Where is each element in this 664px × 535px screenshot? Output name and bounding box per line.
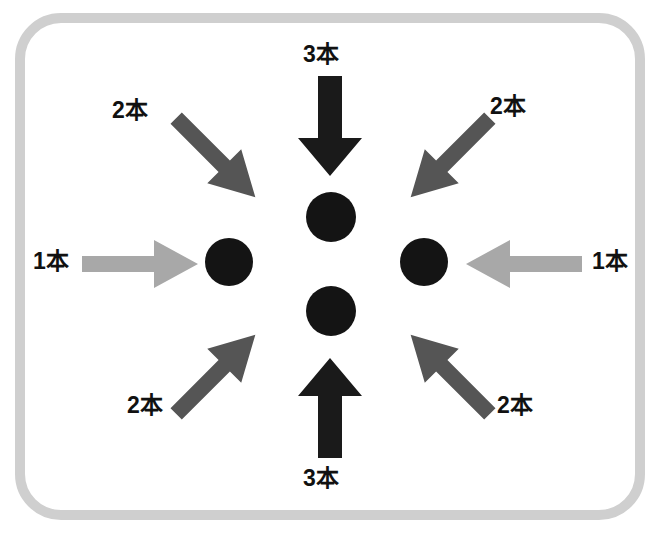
label-top-left: 2本: [112, 99, 148, 122]
label-left: 1本: [33, 250, 69, 273]
arrow-top-left-down-right-icon: [164, 112, 276, 212]
arrow-bottom-up-icon: [298, 358, 362, 458]
label-right: 1本: [592, 250, 628, 273]
label-top-right: 2本: [490, 95, 526, 118]
label-bottom-left: 2本: [127, 394, 163, 417]
arrow-right-left-icon: [466, 240, 582, 288]
diagram-canvas: 3本 3本 1本 1本 2本 2本 2本 2本: [0, 0, 664, 535]
arrow-top-down-icon: [298, 76, 362, 176]
arrow-top-right-down-left-icon: [390, 112, 502, 212]
node-circle-right: [400, 238, 448, 286]
arrow-left-right-icon: [82, 240, 198, 288]
label-bottom: 3本: [303, 467, 339, 490]
node-circle-left: [205, 238, 253, 286]
node-circle-top: [306, 192, 356, 242]
node-circle-bottom: [306, 286, 356, 336]
label-bottom-right: 2本: [497, 394, 533, 417]
arrow-bottom-right-up-left-icon: [390, 320, 502, 420]
arrow-bottom-left-up-right-icon: [164, 320, 276, 420]
label-top: 3本: [303, 43, 339, 66]
